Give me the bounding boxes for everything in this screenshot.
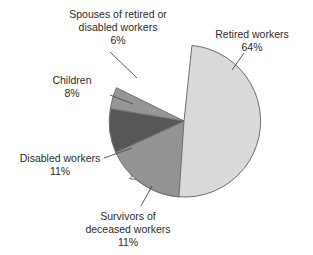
pie-label-text-line1: Disabled workers	[2, 152, 118, 165]
pie-label-text-line2: deceased workers	[58, 223, 198, 236]
pie-label-text-line2: disabled workers	[52, 21, 184, 34]
leader-line-survivors	[141, 186, 152, 206]
pie-label-value: 6%	[52, 34, 184, 47]
pie-label-text-line1: Retired workers	[198, 28, 306, 41]
pie-label-value: 64%	[198, 41, 306, 54]
pie-label-text-line1: Spouses of retired or	[52, 8, 184, 21]
pie-label-text-line1: Children	[20, 74, 124, 87]
pie-label-text-line1: Survivors of	[58, 210, 198, 223]
pie-label-value: 8%	[20, 87, 124, 100]
pie-label-retired-workers: Retired workers 64%	[198, 28, 306, 54]
pie-chart-figure: Spouses of retired or disabled workers 6…	[0, 0, 313, 255]
pie-label-survivors-of-deceased-workers: Survivors of deceased workers 11%	[58, 210, 198, 249]
pie-label-value: 11%	[2, 165, 118, 178]
pie-label-value: 11%	[58, 236, 198, 249]
pie-label-disabled-workers: Disabled workers 11%	[2, 152, 118, 178]
pie-label-children: Children 8%	[20, 74, 124, 100]
pie-label-spouses-of-retired-or-disabled-workers: Spouses of retired or disabled workers 6…	[52, 8, 184, 47]
